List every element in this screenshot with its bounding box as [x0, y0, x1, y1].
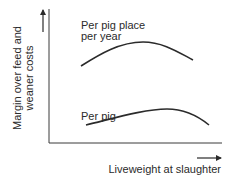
y-axis-label-line-2: weaner costs: [23, 45, 35, 111]
series-per-pig-label: Per pig: [81, 110, 116, 122]
series-per-pig-place-per-year-line: [81, 42, 193, 66]
y-axis-label: Margin over feed and weaner costs: [11, 26, 35, 130]
chart: Margin over feed and weaner costs Per pi…: [0, 0, 232, 177]
x-axis-label: Liveweight at slaughter: [108, 163, 221, 175]
y-axis-label-line-1: Margin over feed and: [11, 26, 23, 130]
series-per-pig-place-label-line-2: per year: [81, 30, 122, 42]
